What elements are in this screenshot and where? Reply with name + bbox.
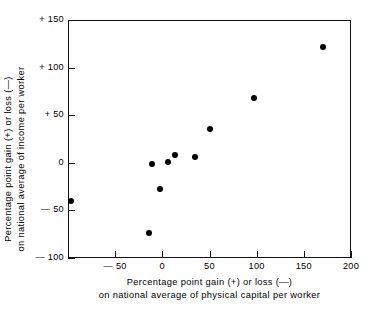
- x-tick-label: 50: [190, 261, 230, 271]
- data-point: [165, 159, 171, 165]
- y-axis-title-line-1: Percentage point gain (+) or loss (—): [2, 76, 15, 242]
- x-tick-label: 0: [142, 261, 182, 271]
- x-tick-label: 100: [237, 261, 277, 271]
- data-point: [157, 186, 163, 192]
- data-point: [320, 44, 326, 50]
- data-point: [149, 161, 155, 167]
- x-axis-title: Percentage point gain (+) or loss (—) on…: [68, 276, 351, 302]
- data-point: [68, 198, 74, 204]
- x-axis-title-line-1: Percentage point gain (+) or loss (—): [68, 276, 351, 289]
- x-tick-label: 150: [284, 261, 324, 271]
- data-point: [146, 230, 152, 236]
- plot-data-area: [68, 20, 351, 258]
- data-point: [192, 154, 198, 160]
- y-tick-mark: [68, 258, 75, 259]
- x-tick-label: 200: [331, 261, 371, 271]
- data-point: [251, 95, 257, 101]
- x-tick-mark: [351, 251, 352, 258]
- y-axis-title: Percentage point gain (+) or loss (—) on…: [0, 40, 30, 278]
- scatter-plot-figure: — 100— 500+ 50+ 100+ 150 — 5005010015020…: [0, 0, 376, 311]
- data-point: [207, 126, 213, 132]
- y-tick-label: + 150: [18, 14, 64, 24]
- x-tick-label: — 50: [95, 261, 135, 271]
- data-point: [172, 152, 178, 158]
- x-axis-title-line-2: on national average of physical capital …: [68, 289, 351, 302]
- y-axis-title-line-2: on national average of income per worker: [15, 66, 28, 251]
